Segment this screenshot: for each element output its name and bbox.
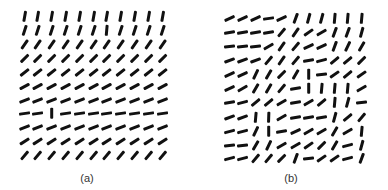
- line-segment: [88, 137, 99, 145]
- line-segment: [88, 53, 98, 63]
- line-segment: [118, 24, 124, 35]
- line-segment: [254, 111, 258, 122]
- line-segment: [60, 82, 71, 89]
- line-segment: [237, 14, 248, 21]
- line-segment: [143, 111, 154, 115]
- line-segment: [116, 39, 124, 49]
- line-segment: [60, 137, 71, 145]
- line-segment: [105, 10, 109, 21]
- line-segment: [101, 111, 112, 115]
- line-segment: [264, 153, 273, 163]
- line-segment: [237, 114, 248, 120]
- line-segment: [320, 82, 324, 93]
- line-segment: [18, 124, 29, 131]
- line-segment: [60, 111, 71, 115]
- line-segment: [307, 68, 310, 79]
- line-segment: [36, 10, 40, 21]
- line-segment: [223, 84, 234, 91]
- line-segment: [289, 127, 300, 134]
- line-segment: [333, 82, 337, 93]
- line-segment: [74, 137, 85, 145]
- line-segment: [252, 68, 259, 79]
- line-segment: [316, 72, 327, 76]
- line-segment: [102, 68, 112, 77]
- line-segment: [115, 124, 126, 131]
- line-segment: [358, 152, 364, 163]
- line-segment: [146, 10, 150, 21]
- line-segment: [143, 124, 154, 131]
- line-segment: [159, 24, 165, 35]
- line-segment: [303, 98, 314, 106]
- line-segment: [250, 30, 261, 34]
- line-segment: [102, 150, 111, 160]
- line-segment: [358, 26, 363, 37]
- line-segment: [74, 124, 85, 131]
- line-segment: [333, 12, 337, 23]
- line-segment: [101, 137, 112, 145]
- line-segment: [223, 114, 234, 120]
- line-segment: [250, 97, 260, 106]
- line-segment: [131, 24, 137, 35]
- line-segment: [316, 42, 327, 49]
- line-segment: [223, 70, 234, 77]
- line-segment: [88, 68, 98, 77]
- line-segment: [143, 82, 154, 89]
- line-segment: [345, 26, 351, 37]
- line-segment: [251, 153, 260, 163]
- line-segment: [19, 137, 30, 145]
- line-segment: [157, 150, 166, 160]
- line-segment: [115, 68, 125, 77]
- line-segment: [343, 55, 353, 64]
- line-segment: [61, 39, 69, 49]
- line-segment: [342, 142, 353, 147]
- line-segment: [129, 97, 140, 104]
- line-segment: [223, 30, 234, 34]
- line-segment: [60, 97, 71, 104]
- line-segment: [22, 10, 26, 21]
- line-segment: [237, 128, 248, 133]
- line-segment: [75, 39, 83, 49]
- line-segment: [21, 24, 27, 35]
- line-segment: [143, 53, 153, 63]
- line-segment: [276, 98, 287, 106]
- line-segment: [319, 12, 324, 23]
- line-segment: [156, 97, 167, 104]
- line-segment: [60, 124, 71, 131]
- line-segment: [18, 97, 29, 104]
- line-segment: [344, 40, 351, 51]
- line-segment: [116, 150, 125, 160]
- line-segment: [74, 68, 84, 77]
- line-segment: [263, 42, 274, 50]
- line-segment: [46, 68, 56, 77]
- line-segment: [265, 69, 273, 80]
- line-segment: [103, 39, 111, 49]
- line-segment: [33, 53, 43, 63]
- line-segment: [252, 125, 259, 136]
- line-segment: [87, 97, 98, 104]
- line-segment: [115, 111, 126, 115]
- line-segment: [316, 115, 327, 119]
- line-segment: [252, 140, 260, 151]
- line-segment: [331, 140, 339, 151]
- line-segment: [101, 97, 112, 104]
- line-segment: [143, 97, 154, 104]
- line-segment: [105, 24, 109, 35]
- line-segment: [290, 55, 299, 65]
- line-segment: [330, 55, 340, 64]
- line-segment: [130, 53, 140, 63]
- line-segment: [157, 137, 168, 145]
- line-segment: [277, 27, 286, 37]
- line-segment: [343, 69, 353, 78]
- line-segment: [46, 124, 57, 131]
- line-segment: [223, 143, 234, 147]
- line-segment: [290, 141, 301, 149]
- line-segment: [342, 155, 353, 160]
- line-segment: [316, 28, 327, 36]
- line-segment: [50, 107, 53, 118]
- line-segment: [118, 10, 122, 21]
- line-segment: [303, 156, 314, 160]
- line-segment: [49, 24, 55, 35]
- line-segment: [115, 137, 126, 145]
- line-segment: [345, 96, 350, 107]
- line-segment: [292, 12, 298, 23]
